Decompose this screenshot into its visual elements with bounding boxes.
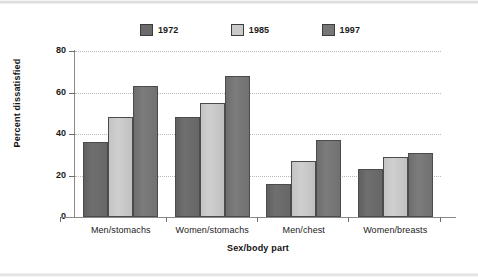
x-tick-mark-3: [348, 217, 349, 222]
x-label-women-breasts: Women/breasts: [350, 224, 442, 238]
bar-groups: [75, 51, 441, 217]
legend-entry-1972: 1972: [140, 24, 178, 36]
y-tick-label-40: 40: [38, 129, 66, 138]
bar-women-breasts-1972: [358, 169, 383, 217]
legend-label-1997: 1997: [340, 26, 360, 35]
bar-group-women-stomachs: [167, 51, 259, 217]
x-tick-mark-0: [60, 217, 61, 222]
bar-women-breasts-1997: [408, 153, 433, 217]
y-axis-title: Percent dissatisfied: [12, 43, 22, 163]
legend-swatch-1997: [322, 24, 335, 36]
legend-swatch-1985: [231, 24, 244, 36]
bar-women-stomachs-1985: [200, 103, 225, 217]
bar-women-breasts-1985: [383, 157, 408, 217]
chart-figure: 1972 1985 1997 80 60 40 20 0 Percent dis…: [0, 0, 478, 277]
chart-legend: 1972 1985 1997: [140, 22, 360, 38]
bar-men-stomachs-1985: [108, 117, 133, 217]
bar-men-chest-1972: [266, 184, 291, 217]
bar-men-stomachs-1997: [133, 86, 158, 217]
bar-group-men-chest: [258, 51, 350, 217]
legend-label-1972: 1972: [158, 26, 178, 35]
x-tick-mark-2: [257, 217, 258, 222]
bar-group-men-stomachs: [75, 51, 167, 217]
x-tick-mark-4: [440, 217, 441, 222]
bar-women-stomachs-1997: [225, 76, 250, 217]
bottom-border-band: [0, 273, 478, 277]
legend-label-1985: 1985: [249, 26, 269, 35]
y-tick-label-20: 20: [38, 171, 66, 180]
y-tick-label-80: 80: [38, 46, 66, 55]
x-label-men-chest: Men/chest: [258, 224, 350, 238]
bar-group-women-breasts: [350, 51, 442, 217]
bar-men-stomachs-1972: [83, 142, 108, 217]
legend-entry-1997: 1997: [322, 24, 360, 36]
legend-swatch-1972: [140, 24, 153, 36]
x-tick-mark-1: [166, 217, 167, 222]
bar-men-chest-1985: [291, 161, 316, 217]
x-axis-tick-marks: [60, 217, 456, 223]
x-axis-title: Sex/body part: [75, 243, 441, 253]
y-axis-tick-labels: 80 60 40 20 0: [36, 0, 66, 277]
y-tick-label-60: 60: [38, 88, 66, 97]
legend-entry-1985: 1985: [231, 24, 269, 36]
x-label-women-stomachs: Women/stomachs: [167, 224, 259, 238]
bar-men-chest-1997: [316, 140, 341, 217]
x-axis-tick-labels: Men/stomachs Women/stomachs Men/chest Wo…: [75, 224, 441, 238]
top-border-band: [0, 0, 478, 4]
x-label-men-stomachs: Men/stomachs: [75, 224, 167, 238]
bar-women-stomachs-1972: [175, 117, 200, 217]
